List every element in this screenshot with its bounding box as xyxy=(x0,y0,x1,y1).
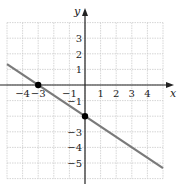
coordinate-plane: −4−3−11234321−1−3−4−5 x y xyxy=(0,0,177,189)
y-tick-label: −4 xyxy=(67,142,82,153)
y-tick-label: −5 xyxy=(67,158,82,169)
intercept-point xyxy=(82,113,88,119)
x-tick-label: 1 xyxy=(97,88,103,99)
y-tick-label: 1 xyxy=(76,64,82,75)
x-tick-label: 3 xyxy=(129,88,135,99)
x-tick-label: 4 xyxy=(144,88,150,99)
y-tick-label: −3 xyxy=(67,127,82,138)
y-tick-label: 2 xyxy=(76,49,82,60)
intercept-point xyxy=(35,82,41,88)
x-tick-label: 2 xyxy=(113,88,119,99)
y-tick-label: 3 xyxy=(76,33,82,44)
x-axis-label: x xyxy=(170,87,177,100)
y-axis-label: y xyxy=(73,5,81,18)
y-axis-arrow-icon xyxy=(82,8,88,16)
x-tick-label: −4 xyxy=(15,88,30,99)
